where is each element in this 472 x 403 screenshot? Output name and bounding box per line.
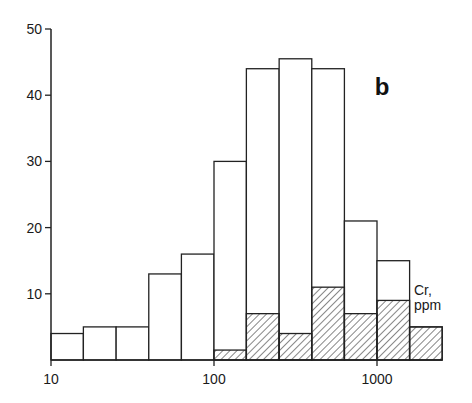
x-tick-label: 100: [202, 371, 226, 387]
histogram-bar: [181, 254, 214, 360]
histogram-bar: [83, 327, 116, 360]
x-tick-label: 10: [43, 371, 59, 387]
hatched-bar: [344, 314, 377, 360]
hatched-bar: [312, 287, 345, 360]
y-tick-label: 20: [26, 220, 42, 236]
axis-annotation: ppm: [414, 297, 441, 313]
hatched-bar: [377, 300, 410, 360]
y-tick-label: 10: [26, 286, 42, 302]
hatched-bar: [246, 314, 279, 360]
hatched-bar: [214, 350, 246, 360]
panel-label: b: [375, 73, 390, 100]
histogram-bar: [51, 334, 83, 360]
histogram-bar: [116, 327, 149, 360]
histogram-bar: [214, 161, 246, 360]
axis-annotation: Cr,: [414, 282, 432, 298]
hatched-bar: [410, 327, 443, 360]
y-tick-label: 50: [26, 21, 42, 37]
histogram-bar: [149, 274, 182, 360]
histogram-bar: [279, 59, 312, 360]
hatched-bar: [279, 334, 312, 360]
y-tick-label: 40: [26, 87, 42, 103]
histogram-chart: 1020304050101001000bCr,ppm: [0, 0, 472, 403]
x-tick-label: 1000: [361, 371, 392, 387]
y-tick-label: 30: [26, 153, 42, 169]
